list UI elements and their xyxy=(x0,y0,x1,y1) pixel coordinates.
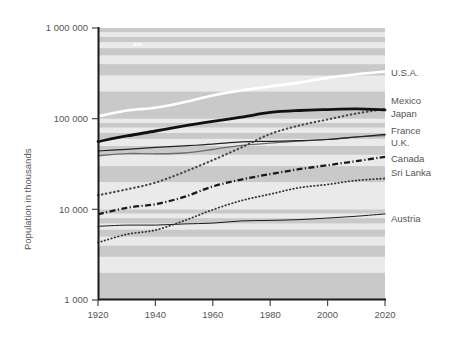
legend-label-u-k: U.K. xyxy=(391,137,409,148)
legend-label-sri-lanka: Sri Lanka xyxy=(391,167,432,178)
legend-label-japan: Japan xyxy=(391,108,417,119)
y-tick-label: 10 000 xyxy=(59,204,88,215)
x-tick-label: 1980 xyxy=(260,309,281,320)
legend-label-canada: Canada xyxy=(391,153,425,164)
x-tick-label: 2000 xyxy=(317,309,338,320)
y-tick-label: 1 000 xyxy=(64,294,88,305)
x-tick-label: 1960 xyxy=(202,309,223,320)
legend-label-austria: Austria xyxy=(391,213,421,224)
x-tick-label: 1920 xyxy=(87,309,108,320)
chart-svg: 1 00010 000100 0001 000 000 192019401960… xyxy=(0,0,457,339)
white-artifact-mark xyxy=(133,43,142,46)
population-line-chart: 1 00010 000100 0001 000 000 192019401960… xyxy=(0,0,457,339)
x-tick-label: 1940 xyxy=(145,309,166,320)
legend-label-france: France xyxy=(391,125,421,136)
y-tick-label: 1 000 000 xyxy=(46,22,88,33)
plot-background-bands xyxy=(98,28,385,300)
y-tick-label: 100 000 xyxy=(54,113,88,124)
legend-label-mexico: Mexico xyxy=(391,95,421,106)
x-tick-label: 2020 xyxy=(374,309,395,320)
legend-label-u-s-a: U.S.A. xyxy=(391,67,418,78)
y-axis-title: Population in thousands xyxy=(22,148,33,250)
